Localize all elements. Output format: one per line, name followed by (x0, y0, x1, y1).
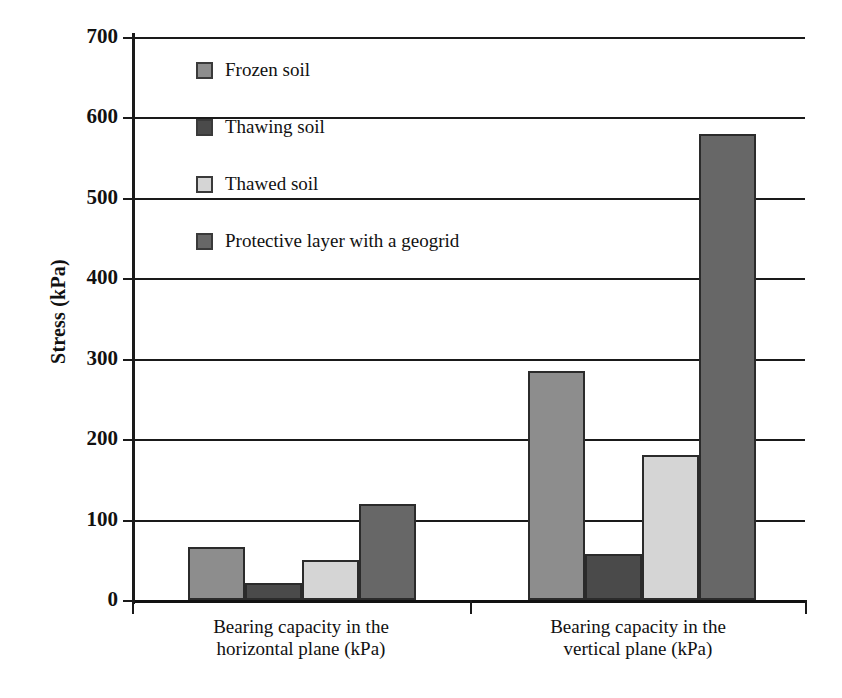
legend-label: Frozen soil (225, 59, 310, 81)
x-axis-group-label-line: Bearing capacity in the (468, 616, 808, 638)
gridline (132, 600, 805, 603)
y-tick-mark (123, 520, 135, 522)
legend-swatch-icon (196, 233, 213, 250)
legend-swatch-icon (196, 119, 213, 136)
bar (245, 583, 302, 600)
legend-label: Thawing soil (225, 116, 325, 138)
y-tick-mark (123, 198, 135, 200)
legend-item: Thawing soil (196, 117, 325, 137)
bar (302, 560, 359, 600)
y-tick-mark (123, 439, 135, 441)
y-tick-mark (123, 117, 135, 119)
y-tick-label: 100 (87, 507, 119, 532)
x-axis-group-label-line: horizontal plane (kPa) (131, 638, 471, 660)
y-tick-label: 0 (108, 587, 119, 612)
bar (642, 455, 699, 600)
x-axis-separator-tick (470, 600, 472, 614)
legend-swatch-icon (196, 176, 213, 193)
legend-item: Frozen soil (196, 60, 310, 80)
bar (585, 554, 642, 600)
y-tick-label: 700 (87, 24, 119, 49)
bar (188, 547, 245, 600)
y-axis-title: Stress (kPa) (47, 212, 70, 412)
y-tick-label: 400 (87, 265, 119, 290)
legend-item: Thawed soil (196, 174, 318, 194)
y-tick-label: 500 (87, 185, 119, 210)
x-axis-group-label-line: vertical plane (kPa) (468, 638, 808, 660)
y-tick-mark (123, 278, 135, 280)
gridline (132, 37, 805, 39)
y-tick-label: 300 (87, 346, 119, 371)
x-axis-group-label: Bearing capacity in thevertical plane (k… (468, 616, 808, 661)
y-tick-mark (123, 37, 135, 39)
x-axis-separator-tick (805, 600, 807, 614)
legend-label: Thawed soil (225, 173, 318, 195)
bar-chart-figure: Stress (kPa) 7006005004003002001000 Bear… (0, 0, 842, 698)
x-axis-group-label: Bearing capacity in thehorizontal plane … (131, 616, 471, 661)
legend-label: Protective layer with a geogrid (225, 230, 459, 252)
x-axis-group-label-line: Bearing capacity in the (131, 616, 471, 638)
bar (699, 134, 756, 600)
bar (528, 371, 585, 600)
y-tick-label: 200 (87, 426, 119, 451)
y-tick-label: 600 (87, 104, 119, 129)
y-tick-mark (123, 359, 135, 361)
legend-item: Protective layer with a geogrid (196, 231, 459, 251)
bar (359, 504, 416, 600)
x-axis-separator-tick (132, 600, 134, 614)
legend-swatch-icon (196, 62, 213, 79)
